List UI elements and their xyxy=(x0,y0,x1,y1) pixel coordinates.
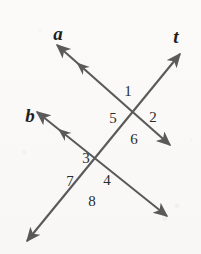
line-label-b: b xyxy=(25,106,35,125)
line-label-t: t xyxy=(173,27,178,46)
figure-canvas xyxy=(0,0,201,254)
angle-label-6: 6 xyxy=(130,132,138,147)
angle-label-8: 8 xyxy=(88,194,96,209)
geometry-figure: a b t 1 2 5 6 3 4 7 8 xyxy=(0,0,201,254)
line-t xyxy=(27,54,180,241)
angle-label-1: 1 xyxy=(124,84,132,99)
angle-label-2: 2 xyxy=(149,110,157,125)
lines-group xyxy=(27,45,180,241)
angle-label-3: 3 xyxy=(82,151,90,166)
angle-label-5: 5 xyxy=(109,111,117,126)
angle-label-4: 4 xyxy=(103,173,111,188)
line-b xyxy=(37,112,167,216)
angle-label-7: 7 xyxy=(66,174,74,189)
parallel-tick-marks-group xyxy=(58,62,90,141)
line-a xyxy=(57,45,170,145)
line-label-a: a xyxy=(53,24,63,43)
